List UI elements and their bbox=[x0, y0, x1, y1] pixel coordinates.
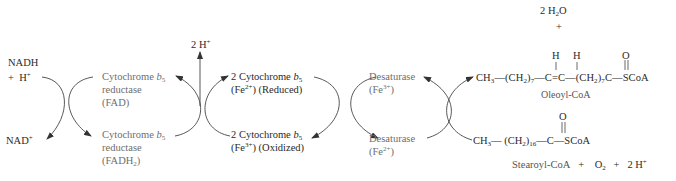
oleoyl-coa-name: Oleoyl-CoA bbox=[541, 88, 590, 101]
label-line: (Fe bbox=[231, 142, 245, 153]
arrow-stearoyl-to-oleoyl bbox=[447, 77, 473, 140]
label-line: (Fe bbox=[369, 84, 383, 95]
reactant-equation: Stearoyl-CoA + O2 + 2 H+ bbox=[512, 158, 647, 171]
water-post: O bbox=[559, 5, 567, 16]
arrow-fad-to-fadh2 bbox=[69, 77, 93, 136]
stearoyl-coa-formula: CH3— (CH2)16—C—SCoA bbox=[473, 134, 590, 147]
charge: + bbox=[29, 134, 33, 142]
arrow-fadh2-to-fad bbox=[175, 76, 201, 136]
cyt-b5-oxidized: 2 Cytochrome b5 (Fe3+) (Oxidized) bbox=[231, 128, 304, 154]
ch2: (CH bbox=[505, 72, 523, 83]
desaturase-fe3: Desaturase (Fe3+) bbox=[369, 70, 415, 96]
bond: — bbox=[494, 72, 505, 83]
cyt-b5-reductase-fad: Cytochrome b5 reductase (FAD) bbox=[102, 70, 165, 109]
atom-h1: H bbox=[552, 49, 560, 62]
label-line: reductase bbox=[102, 83, 165, 96]
carbon: C bbox=[545, 72, 552, 83]
bond: — bbox=[554, 135, 565, 146]
charge: + bbox=[643, 158, 647, 166]
bond: — bbox=[612, 72, 623, 83]
charge: + bbox=[27, 71, 31, 79]
atom-h2: H bbox=[573, 49, 581, 62]
sub: 2 bbox=[602, 164, 606, 172]
bond: — bbox=[534, 72, 545, 83]
label-line: Desaturase bbox=[369, 132, 415, 145]
carbon: C bbox=[547, 135, 554, 146]
protons: 2 H bbox=[627, 159, 642, 170]
label-line: Desaturase bbox=[369, 70, 415, 83]
label-sub: 5 bbox=[162, 134, 166, 142]
plus-sign: + bbox=[8, 72, 14, 83]
bond: — bbox=[536, 135, 547, 146]
proton-release-label: 2 H+ bbox=[191, 38, 210, 51]
label-sub: 5 bbox=[162, 76, 166, 84]
scoa: SCoA bbox=[564, 135, 590, 146]
scoa: SCoA bbox=[623, 72, 649, 83]
label-line: Cytochrome bbox=[102, 71, 157, 82]
stearoyl-coa-name: Stearoyl-CoA bbox=[512, 159, 570, 170]
cyt-b5-reductase-fadh2: Cytochrome b5 reductase (FADH2) bbox=[102, 128, 165, 167]
plus-sign: + bbox=[556, 20, 562, 33]
plus-sign: + bbox=[614, 159, 620, 170]
label-line: ) bbox=[390, 84, 394, 95]
label-line: ) bbox=[390, 146, 394, 157]
arrow-nadh-to-nad bbox=[42, 77, 64, 139]
atom-o: O bbox=[622, 49, 630, 62]
arrow-desat2-to-desat3 bbox=[424, 77, 451, 138]
plus-sign: + bbox=[578, 159, 584, 170]
label-line: ) (Oxidized) bbox=[252, 142, 304, 153]
water-pre: 2 H bbox=[540, 5, 555, 16]
proton: H bbox=[19, 72, 27, 83]
bond: — bbox=[565, 72, 576, 83]
oleoyl-coa-formula: CH3—(CH2)7—C=C—(CH2)7C—SCoA bbox=[476, 71, 649, 84]
arrow-cytb5-ox-to-red bbox=[205, 76, 230, 136]
h-plus-label: + H+ bbox=[8, 71, 31, 84]
label-line: (FAD) bbox=[102, 96, 165, 109]
ch3: CH bbox=[473, 135, 488, 146]
nadh-label: NADH bbox=[8, 56, 38, 69]
label-line: 2 Cytochrome bbox=[231, 129, 293, 140]
bond: — bbox=[491, 135, 502, 146]
proton-text: 2 H bbox=[191, 39, 206, 50]
label-line: (Fe bbox=[231, 84, 245, 95]
label-line: ) (Reduced) bbox=[252, 84, 302, 95]
nad-plus-label: NAD+ bbox=[6, 134, 33, 147]
charge: + bbox=[206, 38, 210, 46]
label-line: reductase bbox=[102, 141, 165, 154]
carbon: C bbox=[605, 72, 612, 83]
cyt-b5-reduced: 2 Cytochrome b5 (Fe2+) (Reduced) bbox=[231, 70, 302, 96]
label-line: Cytochrome bbox=[102, 129, 157, 140]
label-line: 2 Cytochrome bbox=[231, 71, 293, 82]
nad-text: NAD bbox=[6, 135, 29, 146]
water-label: 2 H2O bbox=[540, 4, 567, 17]
label-line: (FADH bbox=[102, 155, 133, 166]
ch2: (CH bbox=[504, 135, 522, 146]
arrow-cytb5-red-to-ox bbox=[312, 77, 339, 138]
label-line: ) bbox=[137, 155, 141, 166]
ch3: CH bbox=[476, 72, 491, 83]
label-line: (Fe bbox=[369, 146, 383, 157]
atom-o-stearoyl: O bbox=[559, 110, 567, 123]
desaturase-fe2: Desaturase (Fe2+) bbox=[369, 132, 415, 158]
ch2: (CH bbox=[576, 72, 594, 83]
